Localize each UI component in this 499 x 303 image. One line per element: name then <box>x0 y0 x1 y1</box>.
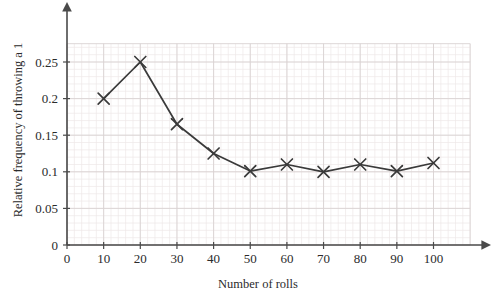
x-tick-label: 30 <box>170 251 183 266</box>
y-tick-label: 0.15 <box>35 128 58 143</box>
x-axis-title: Number of rolls <box>218 277 298 291</box>
y-tick-label: 0.05 <box>35 201 58 216</box>
y-tick-label: 0.25 <box>35 55 58 70</box>
y-tick-label: 0.2 <box>42 91 58 106</box>
chart-page: 00.050.10.150.20.25 01020304050607080901… <box>0 0 499 303</box>
x-tick-label: 100 <box>424 251 444 266</box>
x-tick-label: 20 <box>134 251 147 266</box>
y-tick-label: 0 <box>52 238 59 253</box>
x-tick-label: 10 <box>97 251 110 266</box>
x-tick-label: 40 <box>207 251 220 266</box>
x-tick-label: 50 <box>244 251 257 266</box>
y-tick-label: 0.1 <box>42 164 58 179</box>
x-tick-label: 70 <box>317 251 330 266</box>
x-tick-label: 0 <box>64 251 71 266</box>
x-tick-label: 80 <box>354 251 367 266</box>
relative-frequency-line-chart: 00.050.10.150.20.25 01020304050607080901… <box>0 0 499 303</box>
x-tick-label: 90 <box>390 251 403 266</box>
y-axis-title: Relative frequency of throwing a 1 <box>11 43 25 218</box>
x-tick-label: 60 <box>280 251 293 266</box>
